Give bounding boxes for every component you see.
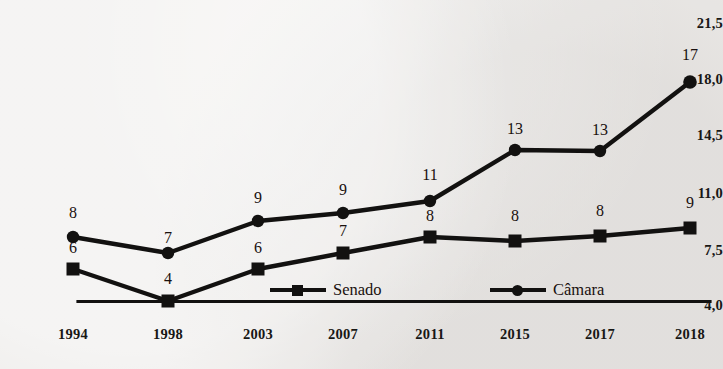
- legend-marker-camara: [512, 285, 523, 296]
- data-label-senado-2018: 9: [686, 195, 694, 211]
- data-point-camara-2017: [594, 145, 606, 157]
- data-label-senado-2017: 8: [596, 203, 604, 219]
- data-label-camara-1994: 8: [69, 205, 77, 221]
- data-label-camara-2017: 13: [592, 122, 608, 138]
- data-point-senado-2011: [424, 231, 437, 244]
- data-point-camara-2015: [509, 144, 521, 156]
- data-label-camara-2015: 13: [507, 121, 523, 137]
- data-point-senado-1998: [162, 295, 175, 308]
- data-label-senado-2007: 7: [339, 223, 347, 239]
- plot-area: [0, 0, 723, 369]
- x-axis-tick-1994: 1994: [58, 327, 88, 342]
- legend-marker-senado: [292, 285, 303, 296]
- data-label-senado-1998: 4: [164, 271, 172, 287]
- x-axis-tick-2017: 2017: [585, 327, 615, 342]
- data-label-camara-2011: 11: [422, 167, 437, 183]
- x-axis-tick-2007: 2007: [328, 327, 358, 342]
- legend-label-senado[interactable]: Senado: [333, 282, 382, 299]
- data-point-senado-2018: [684, 222, 697, 235]
- data-point-senado-1994: [67, 263, 80, 276]
- x-axis-tick-2015: 2015: [500, 327, 530, 342]
- legend-label-camara[interactable]: Câmara: [553, 282, 604, 299]
- data-point-senado-2007: [337, 247, 350, 260]
- data-label-camara-2018: 17: [682, 47, 698, 63]
- x-axis-tick-1998: 1998: [153, 327, 183, 342]
- x-axis-tick-2003: 2003: [243, 327, 273, 342]
- x-axis-tick-2018: 2018: [675, 327, 705, 342]
- data-label-senado-2003: 6: [254, 240, 262, 256]
- line-chart: 21,5 18,0 14,5 11,0 7,5 4,0 8 7 9 9 11 1: [0, 0, 723, 369]
- data-label-senado-1994: 6: [69, 240, 77, 256]
- data-point-senado-2015: [509, 235, 522, 248]
- data-point-camara-2007: [337, 207, 349, 219]
- data-point-camara-2018: [683, 75, 697, 89]
- data-point-senado-2017: [594, 230, 607, 243]
- data-point-camara-1998: [162, 247, 174, 259]
- data-point-camara-2011: [424, 195, 436, 207]
- series-line-camara: [73, 82, 690, 253]
- data-label-camara-2003: 9: [254, 190, 262, 206]
- data-label-senado-2015: 8: [511, 208, 519, 224]
- data-point-senado-2003: [252, 263, 265, 276]
- data-label-camara-2007: 9: [339, 182, 347, 198]
- x-axis-tick-2011: 2011: [415, 327, 444, 342]
- data-point-camara-2003: [252, 215, 264, 227]
- data-label-camara-1998: 7: [164, 230, 172, 246]
- data-label-senado-2011: 8: [426, 208, 434, 224]
